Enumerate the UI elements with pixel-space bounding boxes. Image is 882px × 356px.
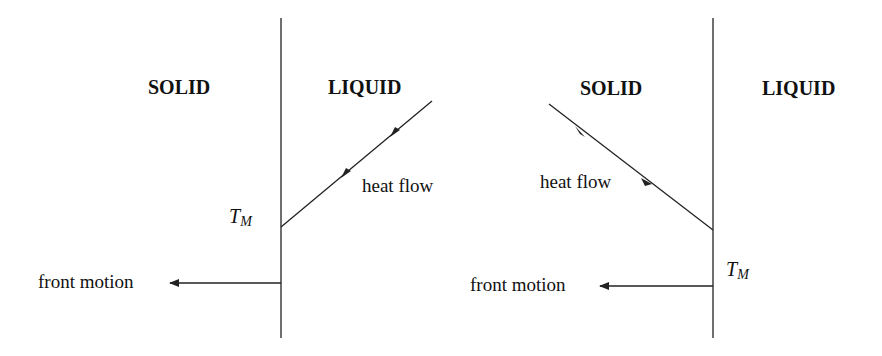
- tm-sub: M: [737, 267, 749, 282]
- left-liquid-label: LIQUID: [328, 76, 401, 99]
- left-melting-temperature-label: TM: [229, 205, 252, 228]
- right-front-motion-label: front motion: [470, 274, 566, 296]
- tm-main: T: [726, 258, 737, 280]
- tm-main: T: [229, 205, 240, 227]
- left-front-motion-label: front motion: [38, 271, 134, 293]
- solidification-front-diagram: SOLID LIQUID heat flow TM front motion S…: [0, 0, 882, 356]
- right-temperature-line: [549, 104, 713, 230]
- right-liquid-label: LIQUID: [762, 77, 835, 100]
- left-temperature-line: [281, 101, 432, 227]
- right-solid-label: SOLID: [580, 77, 642, 100]
- left-heat-flow-label: heat flow: [362, 175, 433, 197]
- right-heat-flow-label: heat flow: [540, 171, 611, 193]
- right-melting-temperature-label: TM: [726, 258, 749, 281]
- diagram-lines: [0, 0, 882, 356]
- tm-sub: M: [240, 214, 252, 229]
- left-solid-label: SOLID: [148, 76, 210, 99]
